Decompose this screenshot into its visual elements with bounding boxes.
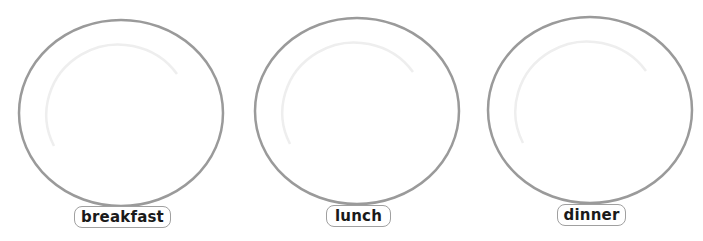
lunch-label: lunch <box>326 205 391 227</box>
breakfast-plate <box>17 18 225 210</box>
dinner-plate <box>486 15 694 207</box>
dinner-label: dinner <box>557 204 626 226</box>
lunch-plate <box>253 16 461 208</box>
plate-icon <box>17 18 225 210</box>
plate-icon <box>253 16 461 208</box>
breakfast-label: breakfast <box>74 206 171 228</box>
plate-icon <box>486 15 694 207</box>
